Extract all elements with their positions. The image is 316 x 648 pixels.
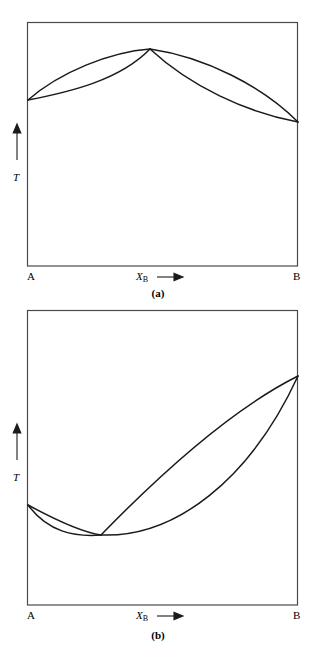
phase-diagram-a xyxy=(0,0,316,324)
caption-a: (a) xyxy=(0,288,316,299)
curve-b-upper-left xyxy=(28,505,101,535)
x-axis-label-b: XB xyxy=(136,610,148,621)
curve-a-upper-right xyxy=(150,49,298,122)
x-axis-label-b-symbol: X xyxy=(136,609,143,621)
curve-b-lower-right xyxy=(101,376,298,535)
curve-b-lower-left xyxy=(28,505,101,535)
y-axis-label-a: T xyxy=(13,172,19,183)
right-arrow-icon-b xyxy=(157,612,183,619)
x-axis-label-b-subscript: B xyxy=(143,614,148,623)
x-axis-label-a: XB xyxy=(136,271,148,282)
corner-label-b-right: B xyxy=(293,610,300,621)
corner-label-a-left: A xyxy=(27,271,35,282)
curve-a-lower-right xyxy=(150,49,298,122)
figure-panel-a: T XB A B (a) xyxy=(0,0,316,324)
x-axis-label-a-symbol: X xyxy=(136,270,143,282)
curve-a-lower-left xyxy=(28,49,150,100)
phase-diagram-b xyxy=(0,300,316,648)
figure-panel-b: T XB A B (b) xyxy=(0,300,316,648)
up-arrow-icon-a xyxy=(13,124,21,160)
y-axis-label-b: T xyxy=(13,472,19,483)
corner-label-a-right: B xyxy=(293,271,300,282)
corner-label-b-left: A xyxy=(27,610,35,621)
up-arrow-icon-b xyxy=(13,424,21,460)
x-axis-label-a-subscript: B xyxy=(143,275,148,284)
curve-b-upper-right xyxy=(101,376,298,535)
right-arrow-icon-a xyxy=(157,273,183,280)
curve-a-upper-left xyxy=(28,49,150,100)
plot-frame-b xyxy=(28,311,298,606)
caption-b: (b) xyxy=(0,630,316,641)
